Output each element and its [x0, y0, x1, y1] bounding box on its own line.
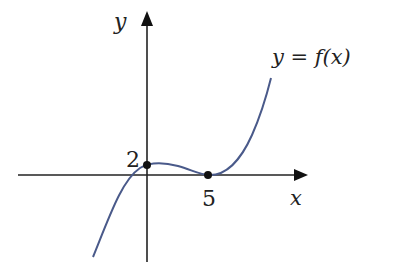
function-curve	[93, 78, 271, 257]
y-intercept-point	[143, 161, 151, 169]
x-axis-label: x	[290, 186, 302, 210]
root-label: 5	[202, 186, 216, 211]
root-point	[204, 171, 212, 179]
y-intercept-label: 2	[126, 147, 140, 172]
y-axis-arrow-icon	[141, 11, 153, 26]
function-graph: y x 2 5 y = f(x)	[0, 0, 397, 270]
function-label: y = f(x)	[271, 45, 351, 69]
x-axis-arrow-icon	[294, 169, 308, 181]
y-axis-label: y	[113, 9, 127, 34]
